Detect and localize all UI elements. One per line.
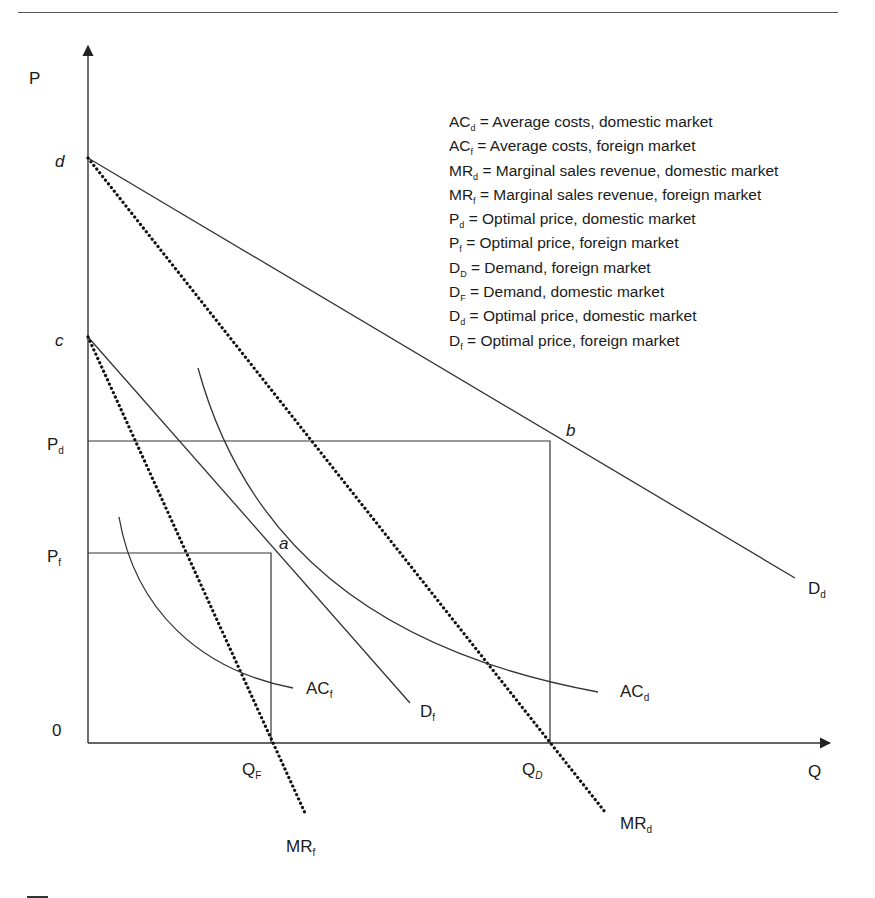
ac-foreign-curve [119, 517, 293, 688]
label-ac-foreign: ACf [306, 680, 332, 700]
legend-item: DF = Demand, domestic market [449, 283, 778, 307]
demand-foreign-line [88, 337, 410, 703]
legend-item: Pd = Optimal price, domestic market [449, 210, 778, 234]
origin-label: 0 [52, 722, 61, 739]
label-mr-foreign: MRf [286, 838, 315, 858]
legend-item: MRd = Marginal sales revenue, domestic m… [449, 162, 778, 186]
label-ac-domestic: ACd [620, 683, 649, 703]
legend-item: DD = Demand, foreign market [449, 259, 778, 283]
point-b: b [566, 422, 575, 439]
tick-pf: Pf [47, 548, 61, 568]
label-demand-domestic: Dd [808, 580, 826, 600]
label-mr-domestic: MRd [620, 815, 652, 835]
label-demand-foreign: Df [420, 703, 435, 723]
legend-item: Df = Optimal price, foreign market [449, 332, 778, 356]
x-axis-label: Q [808, 763, 821, 780]
tick-d: d [55, 153, 64, 170]
legend-item: ACd = Average costs, domestic market [449, 113, 778, 137]
legend-item: ACf = Average costs, foreign market [449, 137, 778, 161]
mr-foreign-line [88, 337, 305, 813]
point-a: a [279, 535, 288, 552]
legend-item: Dd = Optimal price, domestic market [449, 307, 778, 331]
pf-qf-guide [88, 553, 271, 743]
tick-qf: QF [242, 761, 261, 781]
legend: ACd = Average costs, domestic market ACf… [449, 113, 778, 356]
tick-pd: Pd [47, 436, 64, 456]
tick-c: c [55, 332, 64, 349]
tick-qd: QD [522, 761, 542, 781]
legend-item: Pf = Optimal price, foreign market [449, 234, 778, 258]
legend-item: MRf = Marginal sales revenue, foreign ma… [449, 186, 778, 210]
y-axis-label: P [29, 70, 40, 87]
